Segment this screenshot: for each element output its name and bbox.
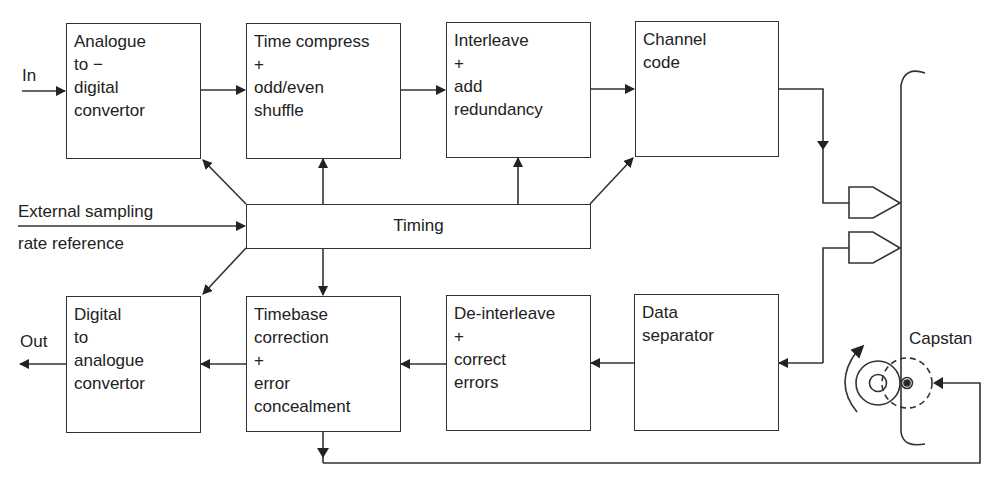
- dac-label: Digital to analogue convertor: [74, 303, 145, 395]
- input-label: In: [22, 66, 36, 86]
- timing-to-dac: [203, 248, 246, 294]
- external-ref-label-2: rate reference: [18, 234, 124, 254]
- timing-to-channel: [590, 158, 633, 204]
- timing-label: Timing: [247, 216, 590, 236]
- capstan-label: Capstan: [909, 329, 972, 349]
- timing-to-adc: [203, 160, 246, 204]
- dac-block: Digital to analogue convertor: [66, 296, 201, 433]
- timebase-label: Timebase correction + error concealment: [254, 303, 350, 418]
- output-label: Out: [20, 332, 47, 352]
- time-compress-label: Time compress + odd/even shuffle: [254, 30, 370, 122]
- line-from-playback-head: [823, 248, 849, 363]
- time-compress-block: Time compress + odd/even shuffle: [246, 23, 401, 159]
- data-separator-block: Data separator: [634, 294, 779, 431]
- data-separator-label: Data separator: [642, 301, 714, 347]
- record-head-icon: [849, 187, 900, 218]
- interleave-block: Interleave + add redundancy: [446, 22, 591, 158]
- adc-block: Analogue to − digital convertor: [66, 23, 201, 159]
- adc-label: Analogue to − digital convertor: [74, 30, 146, 122]
- playback-head-icon: [849, 232, 900, 263]
- deinterleave-label: De-interleave + correct errors: [454, 302, 555, 394]
- external-ref-label-1: External sampling: [18, 202, 153, 222]
- rotation-arrow-icon: [845, 351, 857, 412]
- arrow-channel-to-head: [778, 89, 823, 148]
- interleave-label: Interleave + add redundancy: [454, 29, 543, 121]
- channel-code-block: Channel code: [635, 21, 779, 157]
- pinch-roller-icon: [856, 361, 900, 405]
- channel-code-label: Channel code: [643, 28, 706, 74]
- line-to-record-head: [823, 148, 849, 203]
- deinterleave-block: De-interleave + correct errors: [446, 295, 591, 431]
- timebase-block: Timebase correction + error concealment: [246, 296, 401, 432]
- timing-block: Timing: [246, 204, 591, 249]
